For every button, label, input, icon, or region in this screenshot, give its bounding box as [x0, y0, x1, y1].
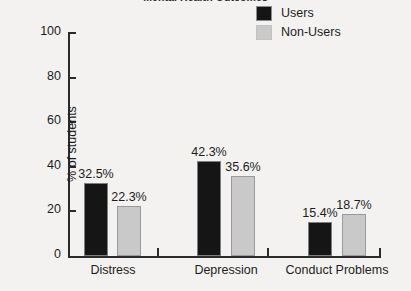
- x-tick-2: [267, 248, 269, 258]
- bar-users-depression: 42.3%: [197, 161, 221, 256]
- y-tick-100: 100: [68, 32, 76, 34]
- x-tick-1: [157, 248, 159, 258]
- x-category-label-conduct-problems: Conduct Problems: [286, 263, 389, 277]
- chart-title-clipped: Mental Health Outcomes: [0, 0, 411, 4]
- legend-label-users: Users: [281, 7, 314, 20]
- y-tick-label: 60: [47, 113, 61, 127]
- y-tick-mark: [68, 77, 76, 79]
- legend-item-users: Users: [256, 6, 341, 20]
- x-category-label-depression: Depression: [194, 263, 257, 277]
- bar-non-users-conduct-problems: 18.7%: [342, 214, 366, 256]
- y-tick-label: 40: [47, 158, 61, 172]
- bar-value-label: 35.6%: [225, 160, 260, 174]
- bar-value-label: 32.5%: [78, 167, 113, 181]
- y-axis-title: % of students: [65, 106, 79, 182]
- y-tick-80: 80: [68, 77, 76, 79]
- legend-swatch-users: [256, 6, 272, 21]
- y-tick-label: 20: [47, 202, 61, 216]
- plot-area: 100 80 60 40 20 0 32.5% 22.3%: [68, 32, 381, 256]
- bar-users-conduct-problems: 15.4%: [308, 222, 332, 257]
- y-tick-mark: [68, 210, 76, 212]
- x-axis-line: [68, 256, 381, 258]
- y-tick-0: 0: [68, 255, 76, 257]
- bar-non-users-depression: 35.6%: [231, 176, 255, 256]
- x-category-label-distress: Distress: [90, 263, 135, 277]
- bar-chart: Mental Health Outcomes Users Non-Users 1…: [0, 0, 411, 291]
- bar-value-label: 15.4%: [302, 206, 337, 220]
- y-tick-label: 100: [40, 24, 61, 38]
- chart-title: Mental Health Outcomes: [0, 0, 411, 3]
- x-axis-right-cap: [379, 248, 381, 258]
- y-tick-mark: [68, 32, 76, 34]
- y-tick-label: 80: [47, 69, 61, 83]
- bar-value-label: 22.3%: [111, 190, 146, 204]
- bar-users-distress: 32.5%: [84, 183, 108, 256]
- y-tick-20: 20: [68, 210, 76, 212]
- bar-non-users-distress: 22.3%: [117, 206, 141, 256]
- bar-value-label: 42.3%: [191, 145, 226, 159]
- y-tick-label: 0: [54, 247, 61, 261]
- bar-value-label: 18.7%: [336, 198, 371, 212]
